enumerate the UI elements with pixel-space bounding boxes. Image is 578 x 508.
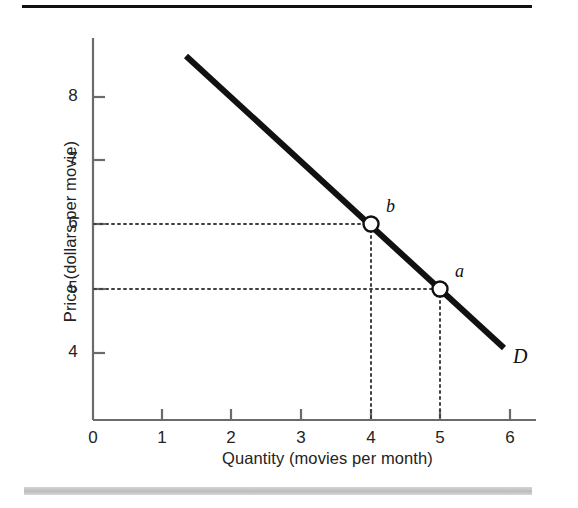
data-point-a-label: a (455, 261, 464, 282)
y-axis-title: Price (dollars per movie) (61, 102, 80, 362)
demand-curve-figure: 8 7 6 5 4 0 1 2 3 4 5 6 b a D Price (dol… (0, 0, 578, 508)
x-tick-label-4: 4 (358, 428, 384, 448)
demand-curve-line (186, 56, 504, 348)
x-tick-label-1: 1 (149, 428, 175, 448)
x-tick-label-3: 3 (288, 428, 314, 448)
x-tick-label-0: 0 (80, 428, 106, 448)
data-point-a-marker[interactable] (433, 282, 448, 297)
x-tick-label-6: 6 (497, 428, 523, 448)
demand-curve-label: D (513, 345, 527, 368)
bottom-accent-bar (24, 487, 532, 495)
data-point-b-label: b (386, 196, 395, 217)
x-tick-label-5: 5 (427, 428, 453, 448)
x-tick-label-2: 2 (218, 428, 244, 448)
x-axis-title: Quantity (movies per month) (222, 449, 433, 468)
data-point-b-marker[interactable] (364, 217, 379, 232)
